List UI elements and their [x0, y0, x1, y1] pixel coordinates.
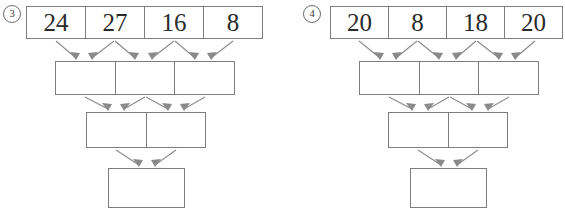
problem-4-third-row	[388, 112, 508, 148]
pyramid-cell-blank[interactable]	[175, 62, 234, 94]
pyramid-cell-blank[interactable]	[116, 62, 176, 94]
pyramid-cell-blank[interactable]	[420, 62, 480, 94]
pyramid-cell[interactable]: 18	[447, 7, 505, 38]
pyramid-cell-blank[interactable]	[389, 113, 449, 147]
pyramid-cell[interactable]: 27	[86, 7, 145, 38]
problem-3-bottom-row	[108, 168, 185, 208]
pyramid-cell[interactable]: 24	[27, 7, 86, 38]
pyramid-cell-blank[interactable]	[147, 113, 206, 147]
pyramid-cell-blank[interactable]	[449, 113, 508, 147]
pyramid-cell[interactable]: 16	[145, 7, 204, 38]
addition-pyramid-worksheet: 3	[0, 0, 565, 211]
pyramid-cell-blank[interactable]	[109, 169, 184, 207]
pyramid-cell-blank[interactable]	[87, 113, 147, 147]
pyramid-cell[interactable]: 8	[204, 7, 262, 38]
problem-4: 4	[283, 0, 565, 211]
problem-3-third-row	[86, 112, 206, 148]
problem-3: 3	[0, 0, 283, 211]
problem-3-top-row: 24 27 16 8	[26, 6, 263, 39]
pyramid-cell[interactable]: 20	[331, 7, 389, 38]
problem-4-top-row: 20 8 18 20	[330, 6, 563, 39]
pyramid-cell-blank[interactable]	[56, 62, 116, 94]
pyramid-cell[interactable]: 8	[389, 7, 447, 38]
pyramid-cell-blank[interactable]	[479, 62, 538, 94]
problem-3-second-row	[55, 61, 235, 95]
circled-number-3-icon: 3	[3, 5, 21, 23]
problem-4-second-row	[359, 61, 539, 95]
pyramid-cell-blank[interactable]	[411, 169, 486, 207]
circled-number-4-icon: 4	[303, 5, 321, 23]
problem-4-bottom-row	[410, 168, 487, 208]
pyramid-cell-blank[interactable]	[360, 62, 420, 94]
pyramid-cell[interactable]: 20	[505, 7, 562, 38]
